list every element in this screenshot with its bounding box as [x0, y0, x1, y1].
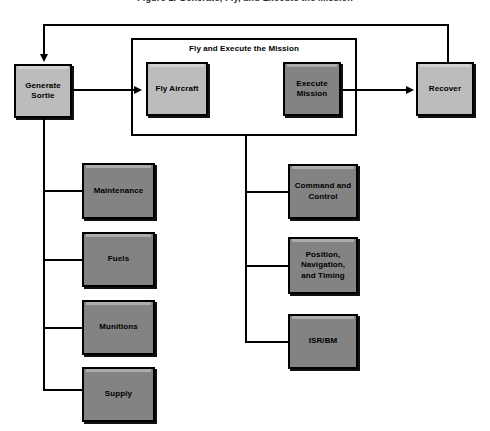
- group-title: Fly and Execute the Mission: [133, 44, 355, 53]
- diagram-canvas: Figure 1. Generate, Fly, and Execute the…: [0, 0, 490, 431]
- node-supply-label: Supply: [103, 389, 134, 399]
- node-fuels-label: Fuels: [106, 254, 131, 264]
- node-fly-aircraft[interactable]: Fly Aircraft: [146, 62, 208, 116]
- node-fly-aircraft-label: Fly Aircraft: [153, 84, 200, 94]
- node-execute-mission[interactable]: Execute Mission: [283, 62, 341, 116]
- node-position-navigation-timing[interactable]: Position, Navigation, and Timing: [288, 237, 358, 294]
- node-munitions-label: Munitions: [97, 322, 140, 332]
- right-branch-stub-command-and-control: [245, 191, 289, 193]
- edge-generate-sortie-to-fly-aircraft: [72, 89, 136, 91]
- left-branch-stub-maintenance: [43, 190, 83, 192]
- node-isr-bm[interactable]: ISR/BM: [288, 314, 358, 369]
- node-generate-sortie-label: Generate Sortie: [23, 81, 62, 101]
- node-munitions[interactable]: Munitions: [82, 300, 155, 355]
- node-recover-label: Recover: [427, 84, 463, 94]
- feedback-loop-right-riser: [447, 24, 449, 64]
- right-branch-trunk: [245, 136, 247, 343]
- edge-execute-mission-to-recover-arrowhead-icon: [406, 86, 414, 94]
- node-fuels[interactable]: Fuels: [82, 232, 155, 287]
- feedback-loop-top-line: [43, 24, 449, 26]
- right-branch-stub-position-navigation-timing: [245, 265, 289, 267]
- left-branch-stub-fuels: [43, 259, 83, 261]
- right-branch-stub-isr-bm: [245, 341, 289, 343]
- node-position-navigation-timing-label: Position, Navigation, and Timing: [299, 250, 347, 281]
- node-maintenance-label: Maintenance: [92, 186, 146, 196]
- node-supply[interactable]: Supply: [82, 367, 155, 422]
- feedback-loop-left-dropper: [43, 24, 45, 55]
- node-recover[interactable]: Recover: [416, 62, 474, 116]
- edge-execute-mission-to-recover: [341, 89, 408, 91]
- left-branch-stub-supply: [43, 389, 83, 391]
- node-maintenance[interactable]: Maintenance: [82, 163, 155, 219]
- figure-caption: Figure 1. Generate, Fly, and Execute the…: [0, 0, 490, 6]
- left-branch-stub-munitions: [43, 327, 83, 329]
- node-command-and-control[interactable]: Command and Control: [288, 164, 358, 219]
- node-generate-sortie[interactable]: Generate Sortie: [14, 64, 72, 118]
- node-command-and-control-label: Command and Control: [293, 181, 354, 201]
- node-execute-mission-label: Execute Mission: [294, 79, 329, 99]
- node-isr-bm-label: ISR/BM: [307, 336, 340, 346]
- left-branch-trunk: [43, 118, 45, 391]
- feedback-loop-arrowhead-icon: [40, 54, 48, 62]
- edge-generate-sortie-to-fly-aircraft-arrowhead-icon: [134, 86, 142, 94]
